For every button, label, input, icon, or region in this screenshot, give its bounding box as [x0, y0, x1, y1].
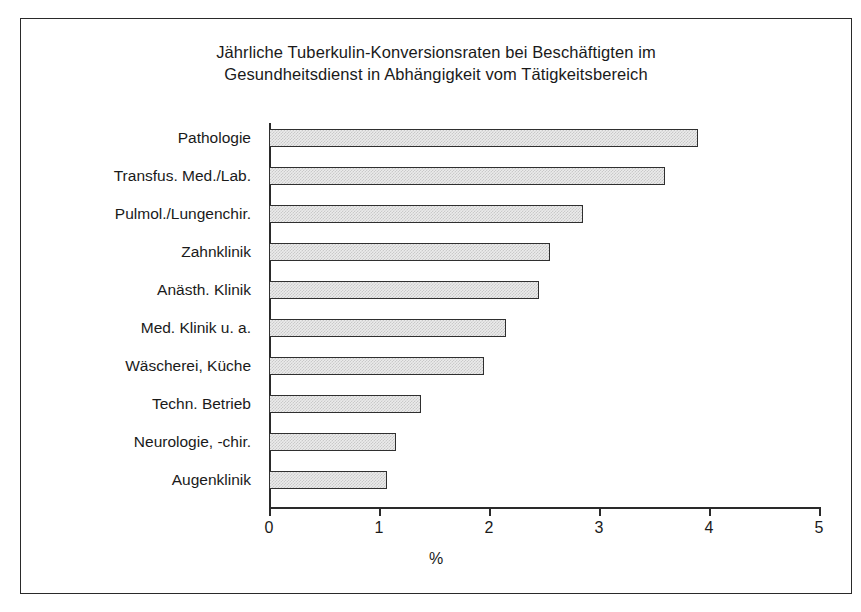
category-label: Techn. Betrieb	[0, 395, 251, 413]
category-label: Zahnklinik	[0, 243, 251, 261]
category-label: Augenklinik	[0, 471, 251, 489]
x-tick-label: 2	[469, 519, 509, 537]
x-tick-mark	[709, 508, 711, 516]
category-label: Wäscherei, Küche	[0, 357, 251, 375]
bar	[269, 395, 421, 413]
chart-figure: Jährliche Tuberkulin-Konversionsraten be…	[20, 18, 852, 594]
category-label: Pulmol./Lungenchir.	[0, 205, 251, 223]
chart-title: Jährliche Tuberkulin-Konversionsraten be…	[21, 41, 851, 85]
x-tick-label: 5	[799, 519, 839, 537]
bar	[269, 433, 396, 451]
category-label: Pathologie	[0, 129, 251, 147]
category-label: Transfus. Med./Lab.	[0, 167, 251, 185]
chart-title-line-2: Gesundheitsdienst in Abhängigkeit vom Tä…	[21, 63, 851, 85]
x-tick-mark	[489, 508, 491, 516]
x-tick-label: 1	[359, 519, 399, 537]
bar	[269, 281, 539, 299]
x-tick-mark	[819, 508, 821, 516]
bar	[269, 243, 550, 261]
chart-title-line-1: Jährliche Tuberkulin-Konversionsraten be…	[21, 41, 851, 63]
category-label: Med. Klinik u. a.	[0, 319, 251, 337]
x-tick-label: 3	[579, 519, 619, 537]
x-tick-mark	[379, 508, 381, 516]
x-tick-mark	[599, 508, 601, 516]
plot-area	[269, 123, 819, 507]
bar	[269, 471, 387, 489]
bar	[269, 319, 506, 337]
bar	[269, 167, 665, 185]
x-tick-label: 4	[689, 519, 729, 537]
category-label: Anästh. Klinik	[0, 281, 251, 299]
category-label: Neurologie, -chir.	[0, 433, 251, 451]
x-tick-label: 0	[249, 519, 289, 537]
bar	[269, 129, 698, 147]
x-axis-title: %	[21, 550, 851, 568]
x-tick-mark	[269, 508, 271, 516]
x-axis-line	[269, 507, 821, 509]
bar	[269, 205, 583, 223]
bar	[269, 357, 484, 375]
